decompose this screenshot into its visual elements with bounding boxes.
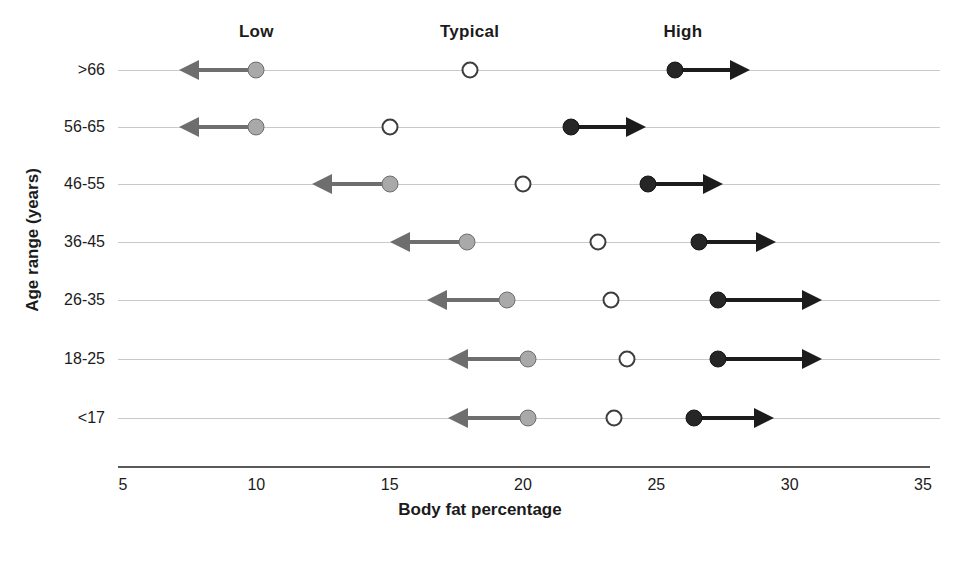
low-marker [499, 292, 516, 309]
high-marker [563, 119, 580, 136]
high-arrow-head [802, 349, 822, 369]
high-marker [685, 410, 702, 427]
column-header-low: Low [239, 22, 274, 42]
low-arrow-shaft [189, 125, 256, 129]
x-tick-30: 30 [781, 476, 799, 494]
typical-marker [603, 292, 620, 309]
low-marker [248, 62, 265, 79]
low-arrow-shaft [458, 357, 528, 361]
typical-marker [619, 351, 636, 368]
x-tick-5: 5 [119, 476, 128, 494]
low-arrow-head [427, 290, 447, 310]
high-marker [667, 62, 684, 79]
high-arrow-head [703, 174, 723, 194]
high-marker [709, 292, 726, 309]
row-label-46-55: 46-55 [15, 175, 105, 193]
typical-marker [461, 62, 478, 79]
high-marker [691, 234, 708, 251]
low-arrow-head [179, 117, 199, 137]
high-arrow-shaft [718, 357, 812, 361]
x-tick-20: 20 [514, 476, 532, 494]
low-arrow-head [448, 408, 468, 428]
column-header-high: High [664, 22, 703, 42]
low-marker [520, 410, 537, 427]
low-arrow-shaft [400, 240, 467, 244]
low-marker [381, 176, 398, 193]
high-marker [709, 351, 726, 368]
low-arrow-shaft [437, 298, 507, 302]
column-header-typical: Typical [440, 22, 499, 42]
row-label-56-65: 56-65 [15, 118, 105, 136]
x-tick-35: 35 [914, 476, 932, 494]
row-label-18-25: 18-25 [15, 350, 105, 368]
typical-marker [589, 234, 606, 251]
low-arrow-head [179, 60, 199, 80]
row-baseline [118, 242, 940, 243]
high-arrow-head [802, 290, 822, 310]
low-marker [459, 234, 476, 251]
high-arrow-shaft [718, 298, 812, 302]
low-arrow-head [448, 349, 468, 369]
x-tick-15: 15 [381, 476, 399, 494]
typical-marker [515, 176, 532, 193]
low-marker [520, 351, 537, 368]
low-arrow-head [312, 174, 332, 194]
body-fat-percentage-chart: LowTypicalHigh Age range (years) >6656-6… [0, 0, 955, 563]
low-arrow-shaft [189, 68, 256, 72]
high-arrow-head [756, 232, 776, 252]
low-arrow-shaft [322, 182, 389, 186]
high-marker [640, 176, 657, 193]
low-arrow-shaft [458, 416, 528, 420]
x-axis-title: Body fat percentage [398, 500, 561, 520]
typical-marker [381, 119, 398, 136]
high-arrow-head [730, 60, 750, 80]
typical-marker [605, 410, 622, 427]
row-label-26-35: 26-35 [15, 291, 105, 309]
x-tick-25: 25 [647, 476, 665, 494]
x-axis-line [118, 466, 930, 468]
low-arrow-head [390, 232, 410, 252]
high-arrow-head [626, 117, 646, 137]
row-label-<17: <17 [15, 409, 105, 427]
low-marker [248, 119, 265, 136]
row-label-36-45: 36-45 [15, 233, 105, 251]
high-arrow-head [754, 408, 774, 428]
x-tick-10: 10 [247, 476, 265, 494]
row-label->66: >66 [15, 61, 105, 79]
